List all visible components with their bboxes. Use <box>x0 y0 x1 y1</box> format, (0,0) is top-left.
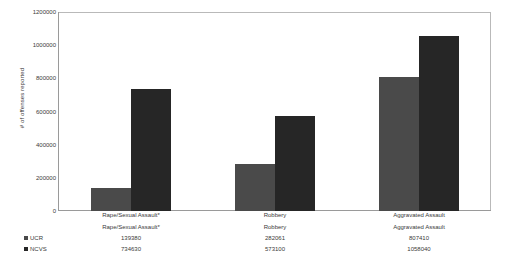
bar-ncvs-1 <box>275 116 315 211</box>
bar-group <box>379 12 459 211</box>
x-axis-category-label: Aggravated Assault <box>347 212 491 218</box>
x-axis-category-labels: Rape/Sexual Assault*RobberyAggravated As… <box>59 212 491 224</box>
legend-item-label: UCR <box>30 235 43 241</box>
table-value-cell: 734630 <box>59 246 203 252</box>
y-axis-tick-label: 200000 <box>14 175 56 181</box>
y-axis-tick-labels: 120000010000008000006000004000002000000 <box>14 12 56 211</box>
table-header-cell: Rape/Sexual Assault* <box>59 224 203 230</box>
table-row-header: Rape/Sexual Assault*RobberyAggravated As… <box>0 224 505 235</box>
data-table: Rape/Sexual Assault*RobberyAggravated As… <box>0 224 505 257</box>
y-axis-tick-label: 800000 <box>14 75 56 81</box>
legend-swatch-icon <box>24 236 28 240</box>
y-axis-tick-label: 600000 <box>14 109 56 115</box>
y-axis-tick-label: 1000000 <box>14 42 56 48</box>
bar-chart: # of offenses reported 12000001000000800… <box>0 0 505 259</box>
y-axis-tick-label: 0 <box>14 208 56 214</box>
y-axis-tick-label: 400000 <box>14 142 56 148</box>
table-row: NCVS7346305731001058040 <box>0 246 505 257</box>
table-header-cell: Aggravated Assault <box>347 224 491 230</box>
bar-ucr-2 <box>379 77 419 211</box>
bars-layer <box>59 12 491 211</box>
table-value-cell: 807410 <box>347 235 491 241</box>
legend-swatch-icon <box>24 247 28 251</box>
bar-ncvs-0 <box>131 89 171 211</box>
table-value-cell: 1058040 <box>347 246 491 252</box>
bar-ucr-1 <box>235 164 275 211</box>
legend-item-ucr[interactable]: UCR <box>24 235 43 241</box>
table-value-cell: 139380 <box>59 235 203 241</box>
legend-item-label: NCVS <box>30 246 47 252</box>
table-header-cell: Robbery <box>203 224 347 230</box>
legend-item-ncvs[interactable]: NCVS <box>24 246 47 252</box>
table-value-cell: 573100 <box>203 246 347 252</box>
bar-group <box>235 12 315 211</box>
table-value-cell: 282061 <box>203 235 347 241</box>
bar-group <box>91 12 171 211</box>
x-axis-category-label: Robbery <box>203 212 347 218</box>
y-axis-tick-label: 1200000 <box>14 9 56 15</box>
bar-ucr-0 <box>91 188 131 211</box>
bar-ncvs-2 <box>419 36 459 211</box>
x-axis-category-label: Rape/Sexual Assault* <box>59 212 203 218</box>
table-row: UCR139380282061807410 <box>0 235 505 246</box>
